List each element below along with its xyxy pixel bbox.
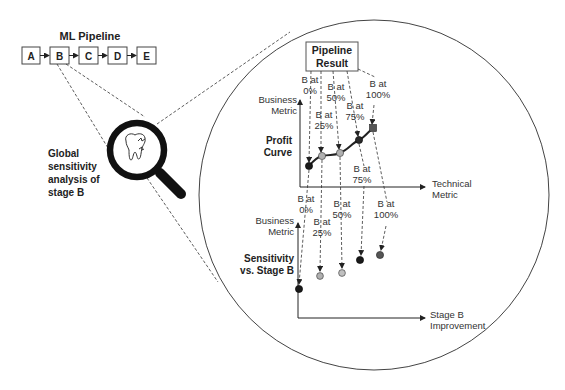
svg-text:0%: 0% <box>303 85 317 96</box>
svg-text:Business: Business <box>255 215 294 226</box>
svg-text:B at: B at <box>378 198 395 209</box>
svg-text:Curve: Curve <box>264 147 293 158</box>
svg-text:50%: 50% <box>332 209 352 220</box>
magnifier-caption: Global sensitivity analysis of stage B <box>48 148 100 198</box>
sensitivity-point-labels: B at 0% B at 25% B at 50% B at 100% <box>298 193 399 238</box>
svg-text:Business: Business <box>258 94 297 105</box>
stage-e-box[interactable]: E <box>137 47 156 64</box>
svg-text:Improvement: Improvement <box>430 320 486 331</box>
sensitivity-points <box>295 251 383 292</box>
svg-text:B at: B at <box>370 78 387 89</box>
magnifier-icon <box>110 123 181 194</box>
profit-curve-title: Profit Curve <box>264 135 293 158</box>
svg-text:B at: B at <box>314 216 331 227</box>
sensitivity-title: Sensitivity vs. Stage B <box>240 253 294 276</box>
svg-text:B at: B at <box>316 109 333 120</box>
zoom-connector-lines <box>57 32 290 282</box>
stage-a-box[interactable]: A <box>22 47 40 64</box>
svg-text:0%: 0% <box>299 204 313 215</box>
ml-pipeline-sensitivity-diagram: ML Pipeline A B C D E <box>0 0 565 390</box>
pipeline-stages: A B C D E <box>22 47 156 64</box>
svg-text:Metric: Metric <box>268 226 294 237</box>
stage-b-box[interactable]: B <box>50 47 69 64</box>
svg-text:Result: Result <box>316 57 349 69</box>
svg-text:B at: B at <box>334 198 351 209</box>
svg-text:Stage B: Stage B <box>430 309 464 320</box>
svg-text:vs. Stage B: vs. Stage B <box>240 265 294 276</box>
svg-text:75%: 75% <box>352 174 372 185</box>
svg-text:25%: 25% <box>312 227 332 238</box>
stage-c-label: C <box>85 51 92 62</box>
stage-a-label: A <box>27 51 34 62</box>
svg-text:Metric: Metric <box>432 189 458 200</box>
svg-text:Technical: Technical <box>432 178 472 189</box>
pipeline-title: ML Pipeline <box>60 30 121 42</box>
svg-text:stage B: stage B <box>48 187 84 198</box>
svg-text:Global: Global <box>48 148 79 159</box>
profit-point-labels: B at 0% B at 25% B at 50% B at 75% B at … <box>302 74 391 185</box>
technical-metric-label: Technical Metric <box>432 178 472 200</box>
sensitivity-y-label: Business Metric <box>255 215 294 237</box>
stage-b-improvement-label: Stage B Improvement <box>430 309 486 331</box>
svg-text:50%: 50% <box>326 92 346 103</box>
svg-text:B at: B at <box>302 74 319 85</box>
stage-c-box[interactable]: C <box>79 47 98 64</box>
svg-text:analysis of: analysis of <box>48 174 100 185</box>
stage-d-box[interactable]: D <box>108 47 127 64</box>
svg-text:B at: B at <box>328 81 345 92</box>
stage-e-label: E <box>143 51 150 62</box>
svg-text:sensitivity: sensitivity <box>48 161 97 172</box>
stage-d-label: D <box>114 51 121 62</box>
svg-text:Pipeline: Pipeline <box>312 44 352 56</box>
svg-text:25%: 25% <box>314 120 334 131</box>
svg-text:B at: B at <box>354 163 371 174</box>
svg-text:75%: 75% <box>345 111 365 122</box>
svg-text:100%: 100% <box>374 209 399 220</box>
svg-text:Sensitivity: Sensitivity <box>244 253 294 264</box>
svg-text:B at: B at <box>347 100 364 111</box>
stage-b-label: B <box>56 51 63 62</box>
profit-curve-line <box>309 128 373 166</box>
svg-text:Profit: Profit <box>266 135 293 146</box>
svg-text:100%: 100% <box>366 89 391 100</box>
profit-y-label: Business Metric <box>258 94 297 116</box>
svg-text:B at: B at <box>298 193 315 204</box>
pipeline-result-box: Pipeline Result <box>306 42 358 71</box>
svg-text:Metric: Metric <box>271 105 297 116</box>
